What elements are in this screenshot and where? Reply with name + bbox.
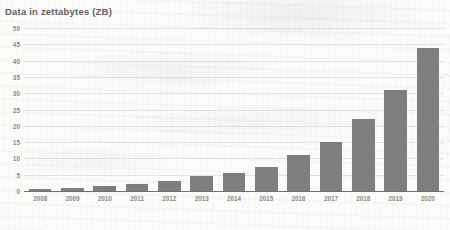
- bar[interactable]: [190, 176, 213, 191]
- bar-slot: [250, 28, 282, 191]
- bar-slot: [315, 28, 347, 191]
- bar[interactable]: [384, 90, 407, 191]
- y-axis-tick-label: 40: [13, 57, 20, 64]
- bar[interactable]: [320, 142, 343, 191]
- x-axis-tick-label: 2015: [250, 195, 282, 202]
- y-axis-tick-label: 15: [13, 139, 20, 146]
- x-axis-tick-label: 2020: [412, 195, 444, 202]
- bar[interactable]: [223, 173, 246, 191]
- y-axis-tick-label: 0: [16, 188, 20, 195]
- x-axis-tick-label: 2012: [153, 195, 185, 202]
- y-axis-tick-label: 30: [13, 90, 20, 97]
- x-axis-tick-label: 2019: [379, 195, 411, 202]
- bar-slot: [347, 28, 379, 191]
- x-axis-line: [24, 191, 444, 192]
- y-axis-tick-label: 45: [13, 41, 20, 48]
- x-axis-tick-label: 2008: [24, 195, 56, 202]
- y-axis-tick-label: 10: [13, 155, 20, 162]
- bar[interactable]: [287, 155, 310, 191]
- bar-slot: [186, 28, 218, 191]
- bar-slot: [282, 28, 314, 191]
- bar-slot: [121, 28, 153, 191]
- x-axis-tick-labels: 2008200920102011201220132014201520162017…: [24, 195, 444, 213]
- x-axis-tick-label: 2017: [315, 195, 347, 202]
- y-axis-tick-label: 50: [13, 25, 20, 32]
- bar-slot: [218, 28, 250, 191]
- y-axis-tick-label: 25: [13, 106, 20, 113]
- y-axis-tick-label: 20: [13, 122, 20, 129]
- x-axis-tick-label: 2010: [89, 195, 121, 202]
- bar-slot: [56, 28, 88, 191]
- y-axis-tick-label: 35: [13, 73, 20, 80]
- bar-slot: [24, 28, 56, 191]
- bar-slot: [412, 28, 444, 191]
- x-axis-tick-label: 2018: [347, 195, 379, 202]
- x-axis-tick-label: 2016: [282, 195, 314, 202]
- y-axis-tick-label: 5: [16, 171, 20, 178]
- x-axis-tick-label: 2014: [218, 195, 250, 202]
- x-axis-tick-label: 2009: [56, 195, 88, 202]
- x-axis-tick-label: 2013: [186, 195, 218, 202]
- page-title: Data in zettabytes (ZB): [5, 6, 112, 17]
- bars-group: [24, 28, 444, 191]
- chart-screenshot: Data in zettabytes (ZB) 0510152025303540…: [0, 0, 450, 230]
- bar[interactable]: [158, 181, 181, 191]
- bar-slot: [379, 28, 411, 191]
- bar[interactable]: [352, 119, 375, 191]
- x-axis-tick-label: 2011: [121, 195, 153, 202]
- bar[interactable]: [417, 48, 440, 191]
- bar-slot: [153, 28, 185, 191]
- bar[interactable]: [255, 167, 278, 191]
- bar-slot: [89, 28, 121, 191]
